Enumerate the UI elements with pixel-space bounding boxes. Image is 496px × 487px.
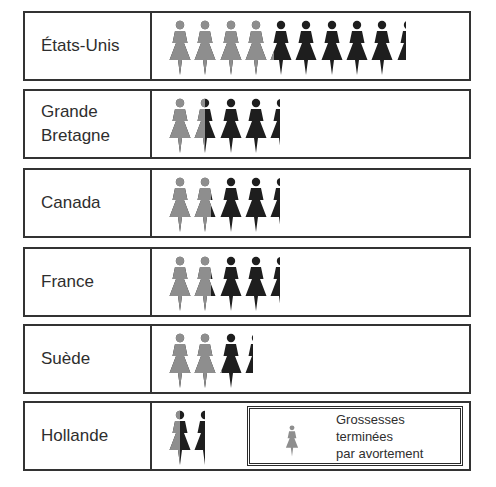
figure-other [294, 20, 318, 76]
woman-figure-icon [244, 20, 268, 76]
pictogram-figure [193, 333, 218, 389]
pictogram-figure [396, 20, 421, 76]
woman-figure-icon [193, 333, 217, 389]
figure-other [219, 256, 243, 312]
figure-other [370, 20, 394, 76]
figure-strip [168, 333, 269, 389]
row-grande-bretagne: Grande Bretagne [23, 89, 471, 159]
row-etats-unis: États-Unis [23, 11, 471, 81]
pictogram-figure [269, 177, 294, 233]
row-label: Suède [25, 326, 152, 392]
figure-aborted [168, 98, 192, 154]
row-label: Grande Bretagne [25, 91, 152, 157]
pictogram-figure [193, 177, 218, 233]
woman-figure-icon [244, 256, 268, 312]
pictogram-figure [219, 177, 244, 233]
woman-figure-icon [168, 98, 192, 154]
figure-aborted [193, 256, 211, 312]
pictogram-figure [219, 256, 244, 312]
figures-cell [152, 170, 469, 236]
row-label: États-Unis [25, 13, 152, 79]
woman-figure-icon [168, 333, 192, 389]
woman-figure-icon [244, 177, 268, 233]
pictogram-figure [244, 98, 269, 154]
woman-figure-icon [219, 177, 243, 233]
figure-other [269, 177, 280, 233]
woman-figure-icon [396, 20, 407, 76]
figure-other [244, 98, 268, 154]
pictogram-figure [168, 177, 193, 233]
woman-figure-icon [244, 333, 254, 389]
woman-figure-icon [269, 20, 274, 76]
pictogram-figure [193, 20, 218, 76]
pictogram-figure [269, 20, 294, 76]
woman-figure-icon [269, 98, 280, 154]
pictogram-figure [193, 98, 218, 154]
woman-figure-icon [294, 20, 318, 76]
figures-cell [152, 326, 469, 392]
woman-figure-icon [193, 20, 217, 76]
pictogram-figure [168, 98, 193, 154]
pictogram-figure [168, 20, 193, 76]
row-label: Hollande [25, 403, 152, 469]
figure-aborted [193, 20, 217, 76]
woman-figure-icon [244, 98, 268, 154]
figure-other [244, 256, 268, 312]
figure-strip [168, 20, 421, 76]
figure-aborted [244, 20, 268, 76]
woman-figure-icon [285, 425, 299, 457]
woman-figure-icon [345, 20, 369, 76]
woman-figure-icon [193, 98, 205, 154]
pictogram-figure [168, 333, 193, 389]
row-canada: Canada [23, 168, 471, 238]
pictogram-figure [244, 333, 269, 389]
woman-figure-icon [219, 98, 243, 154]
legend: Grossesses terminées par avortement [247, 406, 463, 466]
woman-figure-icon [168, 410, 180, 466]
figures-cell [152, 13, 469, 79]
pictogram-figure [168, 256, 193, 312]
figures-cell [152, 249, 469, 315]
figure-other [345, 20, 369, 76]
pictogram-figure [219, 98, 244, 154]
pictogram-figure [269, 98, 294, 154]
figure-other [219, 333, 243, 389]
figure-aborted [168, 177, 192, 233]
pictogram-figure [219, 20, 244, 76]
pictogram-figure [193, 256, 218, 312]
figure-strip [168, 98, 294, 154]
row-france: France [23, 247, 471, 317]
figures-cell [152, 91, 469, 157]
woman-figure-icon [219, 333, 223, 389]
figure-aborted [168, 20, 192, 76]
pictogram-figure [168, 410, 193, 466]
woman-figure-icon [269, 177, 280, 233]
woman-figure-icon [193, 177, 211, 233]
pictogram-figure [320, 20, 345, 76]
figure-other [269, 98, 280, 154]
pictogram-figure [219, 333, 244, 389]
woman-figure-icon [219, 256, 243, 312]
figure-aborted [168, 410, 180, 466]
pictogram-figure [345, 20, 370, 76]
pictogram-figure [193, 410, 218, 466]
woman-figure-icon [168, 20, 192, 76]
figure-other [396, 20, 407, 76]
pictogram-figure [244, 20, 269, 76]
figure-aborted [168, 256, 192, 312]
figure-other [244, 333, 254, 389]
figure-strip [168, 256, 294, 312]
row-label: France [25, 249, 152, 315]
figure-aborted [168, 333, 192, 389]
woman-figure-icon [193, 410, 205, 466]
figure-other [219, 177, 243, 233]
woman-figure-icon [168, 177, 192, 233]
row-suede: Suède [23, 324, 471, 394]
figure-aborted [193, 177, 211, 233]
figure-aborted [219, 20, 243, 76]
legend-label: Grossesses terminées par avortement [336, 411, 423, 462]
row-label: Canada [25, 170, 152, 236]
woman-figure-icon [168, 256, 192, 312]
figure-other [219, 98, 243, 154]
pictogram-figure [244, 256, 269, 312]
